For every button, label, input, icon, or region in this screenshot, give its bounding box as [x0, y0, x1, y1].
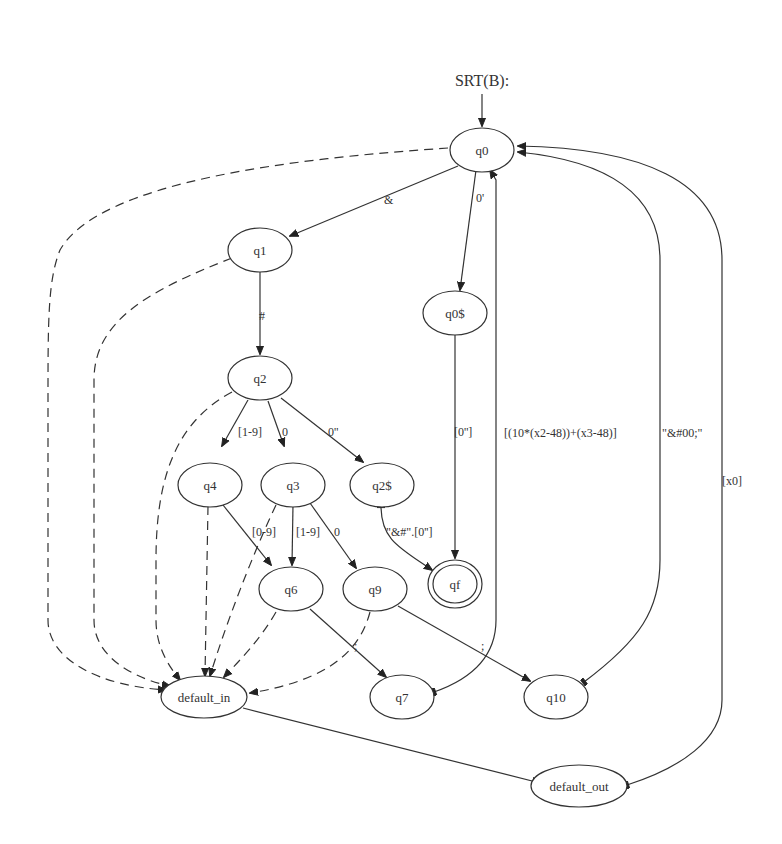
- automaton-diagram: SRT(B): & 0' # [1-9] 0 0'' [0''] "&#".[0…: [0, 0, 782, 844]
- state-qf-accepting: qf: [428, 560, 482, 608]
- label-one-nine-b: [1-9]: [296, 525, 320, 539]
- svg-text:q0$: q0$: [445, 306, 465, 321]
- label-amp-hash-00: "&#00;": [662, 426, 703, 440]
- edge-q0-q1: [290, 166, 458, 236]
- label-one-nine: [1-9]: [238, 425, 262, 439]
- svg-text:q2: q2: [254, 371, 267, 386]
- state-q7: q7: [370, 675, 434, 719]
- edge-q2-q3: [268, 401, 284, 446]
- label-hash: #: [259, 309, 265, 323]
- state-q1: q1: [228, 228, 292, 272]
- edge-q3-q6: [292, 505, 293, 565]
- dashed-edge-q2-defaultin: [156, 392, 232, 680]
- svg-text:q4: q4: [204, 478, 218, 493]
- svg-text:q0: q0: [476, 143, 489, 158]
- dashed-edge-q6-defaultin: [224, 612, 276, 677]
- edge-q2-q2s: [281, 398, 363, 462]
- svg-text:q6: q6: [285, 582, 299, 597]
- state-default-in: default_in: [161, 676, 247, 718]
- diagram-title: SRT(B):: [455, 72, 509, 90]
- edge-q0-q0s: [460, 170, 476, 290]
- dashed-edge-q9-defaultin: [250, 612, 370, 693]
- svg-text:q3: q3: [287, 478, 300, 493]
- label-zero-b: 0: [334, 525, 340, 539]
- svg-text:qf: qf: [450, 577, 462, 592]
- state-q10: q10: [524, 675, 588, 719]
- svg-text:q1: q1: [254, 243, 267, 258]
- label-amp-hash-concat: "&#".[0'']: [386, 525, 432, 539]
- edge-q9-q10: [398, 606, 530, 681]
- state-default-out: default_out: [531, 765, 627, 807]
- edge-defaultin-defaultout: [243, 708, 540, 783]
- svg-text:q9: q9: [369, 582, 382, 597]
- edge-q6-q7: [310, 609, 386, 677]
- svg-text:q2$: q2$: [372, 478, 392, 493]
- state-q2s: q2$: [350, 463, 414, 507]
- svg-text:default_in: default_in: [178, 690, 231, 705]
- label-semicolon-b: ;: [481, 639, 484, 653]
- state-q2: q2: [228, 356, 292, 400]
- state-q4: q4: [178, 463, 242, 507]
- label-x0: [x0]: [722, 474, 742, 488]
- state-q0: q0: [450, 128, 514, 172]
- label-zero-nine: [0-9]: [252, 525, 276, 539]
- label-zero-dprime: 0'': [328, 425, 338, 439]
- state-q6: q6: [259, 567, 323, 611]
- label-zero: 0: [282, 425, 288, 439]
- label-zero-prime: 0': [476, 191, 484, 205]
- edge-q10-q0: [518, 152, 660, 682]
- svg-text:default_out: default_out: [549, 779, 609, 794]
- svg-text:q10: q10: [546, 690, 566, 705]
- svg-text:q7: q7: [396, 690, 410, 705]
- dashed-edge-q4-defaultin: [205, 506, 208, 676]
- label-amp: &: [384, 193, 394, 207]
- label-bracket-zero-dprime: [0'']: [454, 425, 472, 439]
- edge-q2-q4: [222, 400, 248, 446]
- state-q3: q3: [261, 463, 325, 507]
- state-q0s: q0$: [423, 291, 487, 335]
- state-q9: q9: [343, 567, 407, 611]
- label-formula: [(10*(x2-48))+(x3-48)]: [504, 426, 617, 440]
